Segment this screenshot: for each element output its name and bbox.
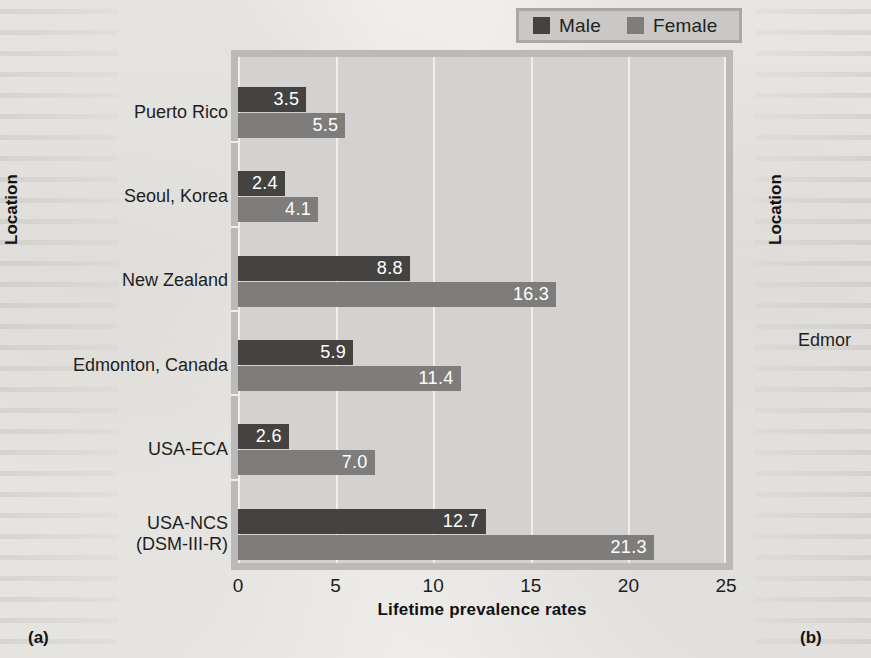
bar-value-label: 2.6: [256, 426, 289, 447]
bar-female: 11.4: [238, 366, 461, 391]
x-axis-tick-label: 20: [618, 575, 639, 597]
bar-value-label: 11.4: [419, 368, 461, 389]
bar-female: 16.3: [238, 282, 556, 307]
bar-value-label: 16.3: [513, 284, 556, 305]
y-axis-category-label: Puerto Rico: [13, 102, 228, 123]
y-axis-tick: [231, 479, 238, 481]
x-axis-tick-label: 25: [715, 575, 736, 597]
x-axis-tick-label: 0: [233, 575, 244, 597]
bar-female: 21.3: [238, 535, 654, 560]
legend-swatch-male-icon: [533, 17, 550, 34]
x-axis-tick-label: 15: [520, 575, 541, 597]
y-axis-category-labels: Puerto RicoSeoul, KoreaNew ZealandEdmont…: [10, 57, 228, 563]
y-axis-tick: [231, 226, 238, 228]
gridline: [628, 57, 630, 563]
bar-male: 5.9: [238, 340, 353, 365]
bar-value-label: 21.3: [611, 537, 654, 558]
bar-male: 12.7: [238, 509, 486, 534]
panel-label-a: (a): [28, 628, 49, 648]
gridline: [724, 57, 726, 563]
y-axis-title-panel-b: Location: [766, 174, 786, 245]
chart-panel-b: Location Edmor (b): [750, 0, 871, 658]
bar-male: 2.4: [238, 171, 285, 196]
y-axis-tick: [231, 394, 238, 396]
chart-panel-a: Male Female 3.55.52.44.18.816.35.911.42.…: [0, 0, 760, 658]
bar-value-label: 12.7: [443, 511, 486, 532]
y-axis-title: Location: [2, 174, 22, 245]
y-axis-tick: [231, 310, 238, 312]
legend-label-male: Male: [559, 15, 601, 37]
bar-value-label: 5.9: [320, 342, 353, 363]
y-axis-category-label: Edmonton, Canada: [13, 355, 228, 376]
legend-swatch-female-icon: [627, 17, 644, 34]
bar-value-label: 4.1: [285, 199, 318, 220]
x-axis-title: Lifetime prevalence rates: [238, 600, 726, 620]
bar-male: 8.8: [238, 256, 410, 281]
plot-area: 3.55.52.44.18.816.35.911.42.67.012.721.3: [238, 57, 726, 563]
y-axis-category-label: New Zealand: [13, 270, 228, 291]
gridline: [433, 57, 435, 563]
y-axis-category-label: Seoul, Korea: [13, 186, 228, 207]
bar-value-label: 5.5: [312, 115, 345, 136]
x-axis-tick-label: 5: [330, 575, 341, 597]
bar-male: 2.6: [238, 424, 289, 449]
legend-label-female: Female: [653, 15, 718, 37]
y-axis-tick: [231, 141, 238, 143]
y-axis-category-label: USA-NCS(DSM-III-R): [13, 513, 228, 555]
panel-label-b: (b): [800, 628, 822, 648]
chart-legend: Male Female: [516, 8, 742, 43]
bar-value-label: 7.0: [342, 452, 375, 473]
legend-entry-male: Male: [533, 15, 601, 37]
bar-female: 4.1: [238, 197, 318, 222]
bar-value-label: 8.8: [377, 258, 410, 279]
y-axis-category-label-panel-b: Edmor: [798, 330, 851, 351]
x-axis-tick-label: 10: [423, 575, 444, 597]
bar-value-label: 2.4: [252, 173, 285, 194]
y-axis-category-label: USA-ECA: [13, 439, 228, 460]
bar-female: 5.5: [238, 113, 345, 138]
bar-female: 7.0: [238, 450, 375, 475]
bar-value-label: 3.5: [273, 89, 306, 110]
bar-male: 3.5: [238, 87, 306, 112]
legend-entry-female: Female: [627, 15, 718, 37]
gridline: [531, 57, 533, 563]
